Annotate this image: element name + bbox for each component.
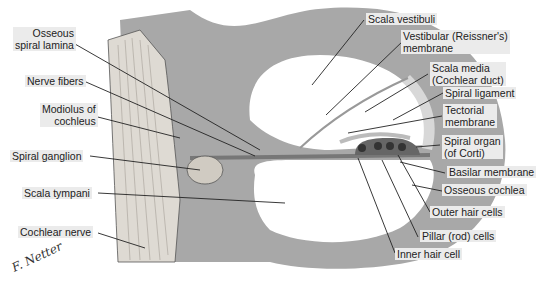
- spiral-ganglion-shape: [187, 156, 223, 184]
- label-modiolus-of-cochleus: Modiolus of cochleus: [40, 103, 98, 127]
- label-spiral-organ: Spiral organ (of Corti): [442, 135, 503, 159]
- label-scala-tympani: Scala tympani: [22, 187, 92, 199]
- label-osseous-spiral-lamina: Osseous spiral lamina: [13, 27, 76, 51]
- label-vestibular-membrane: Vestibular (Reissner's) membrane: [401, 30, 510, 54]
- label-tectorial-membrane: Tectorial membrane: [443, 104, 497, 128]
- label-outer-hair-cells: Outer hair cells: [430, 206, 505, 218]
- label-osseous-cochlea: Osseous cochlea: [442, 184, 527, 196]
- label-inner-hair-cell: Inner hair cell: [395, 248, 462, 260]
- label-pillar-rod-cells: Pillar (rod) cells: [420, 230, 496, 242]
- label-basilar-membrane: Basilar membrane: [447, 166, 536, 178]
- label-spiral-ligament: Spiral ligament: [443, 87, 516, 99]
- label-cochlear-nerve: Cochlear nerve: [18, 226, 93, 238]
- label-nerve-fibers: Nerve fibers: [25, 75, 86, 87]
- label-scala-media: Scala media (Cochlear duct): [430, 62, 506, 86]
- label-scala-vestibuli: Scala vestibuli: [366, 13, 437, 25]
- label-spiral-ganglion: Spiral ganglion: [10, 150, 83, 162]
